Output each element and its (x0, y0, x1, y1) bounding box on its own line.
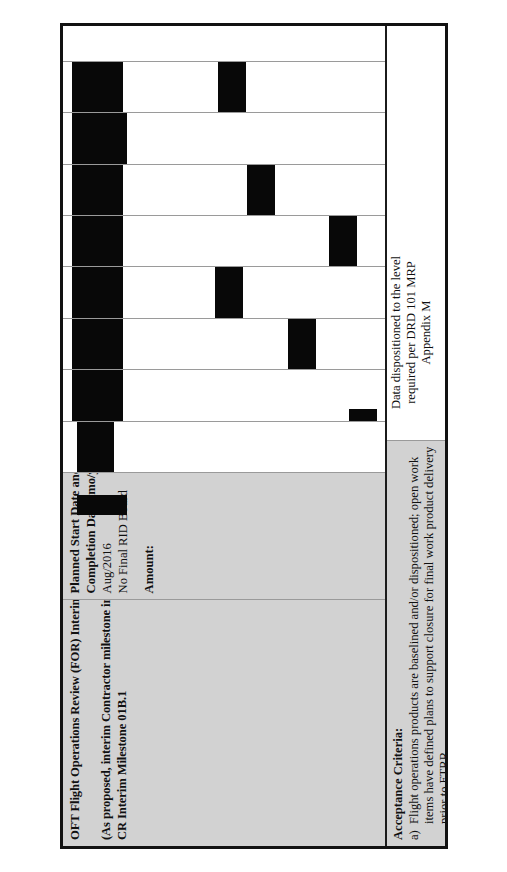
acceptance-right-note-line3: Appendix M (419, 231, 434, 434)
acceptance-criteria-cell: Acceptance Criteria: a) Flight operation… (387, 440, 445, 846)
amount-redaction-block (77, 495, 127, 515)
redaction-block (72, 164, 95, 215)
redaction-block (95, 215, 123, 266)
redaction-block (123, 112, 127, 163)
redaction-block (349, 409, 377, 421)
redaction-block (95, 164, 123, 215)
redaction-block (72, 61, 95, 112)
redaction-block (95, 369, 123, 420)
redaction-block (72, 215, 95, 266)
milestone-reference: CR Interim Milestone 01B.1 (114, 605, 130, 840)
amount-label: Amount: (141, 478, 157, 593)
table-main-band: OFT Flight Operations Review (FOR) Inter… (63, 26, 385, 846)
redaction-block (247, 164, 275, 215)
acceptance-right-note-line1: Data dispositioned to the level (389, 231, 404, 434)
redaction-block (72, 112, 95, 163)
redaction-block (72, 318, 95, 369)
milestone-description-cell: OFT Flight Operations Review (FOR) Inter… (63, 599, 385, 846)
acceptance-right-note-line2: required per DRD 101 MRP (404, 231, 419, 434)
milestone-subtitle: (As proposed, interim Contractor milesto… (98, 605, 114, 840)
redaction-block (215, 266, 243, 317)
table-acceptance-band: Acceptance Criteria: a) Flight operation… (385, 26, 445, 846)
data-column-5 (63, 215, 385, 266)
acceptance-right-note-cell: Data dispositioned to the level required… (387, 226, 445, 440)
data-column-9 (63, 26, 385, 61)
scanned-page: OFT Flight Operations Review (FOR) Inter… (0, 0, 507, 872)
redaction-block (95, 61, 123, 112)
redaction-block (95, 112, 123, 163)
redaction-block (329, 215, 357, 266)
spacer (83, 605, 98, 840)
acceptance-criteria-text: Flight operations products are baselined… (407, 446, 445, 824)
milestone-title: OFT Flight Operations Review (FOR) Inter… (67, 605, 83, 840)
data-column-4 (63, 266, 385, 317)
acceptance-criteria-body: a) Flight operations products are baseli… (407, 446, 445, 840)
document-rotor: OFT Flight Operations Review (FOR) Inter… (60, 23, 448, 849)
redaction-block (72, 369, 95, 420)
redaction-block (288, 318, 316, 369)
redaction-block (218, 61, 246, 112)
redaction-block (95, 318, 123, 369)
data-column-8 (63, 61, 385, 112)
data-column-1 (63, 421, 385, 472)
planned-dates-cell: Planned Start Date and Completion Date (… (63, 472, 385, 599)
redaction-block (72, 266, 95, 317)
acceptance-criteria-marker: a) (407, 824, 445, 840)
acceptance-criteria-heading: Acceptance Criteria: (391, 446, 406, 840)
data-column-7 (63, 112, 385, 163)
redaction-block (95, 266, 123, 317)
milestone-table: OFT Flight Operations Review (FOR) Inter… (60, 23, 448, 849)
data-column-2 (63, 369, 385, 420)
redaction-block (77, 421, 114, 472)
data-column-3 (63, 318, 385, 369)
data-column-6 (63, 164, 385, 215)
